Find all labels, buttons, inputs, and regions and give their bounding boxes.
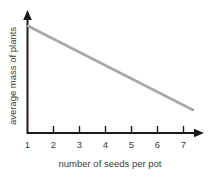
x-axis-arrow-icon [194, 129, 204, 138]
x-tick-label: 6 [155, 139, 160, 150]
data-series-line [28, 26, 193, 110]
y-axis-title: average mass of plants [7, 27, 18, 125]
x-axis-title: number of seeds per pot [59, 158, 162, 169]
chart-figure: 1 2 3 4 5 6 7 number of seeds per pot av… [0, 0, 211, 176]
x-tick-label: 3 [77, 139, 82, 150]
y-axis-arrow-icon [23, 10, 32, 20]
x-tick-label: 7 [181, 139, 186, 150]
x-tick-label: 2 [51, 139, 56, 150]
x-tick-label: 1 [25, 139, 30, 150]
line-chart: 1 2 3 4 5 6 7 number of seeds per pot av… [0, 0, 211, 176]
x-tick-label: 5 [129, 139, 134, 150]
x-tick-label: 4 [103, 139, 108, 150]
